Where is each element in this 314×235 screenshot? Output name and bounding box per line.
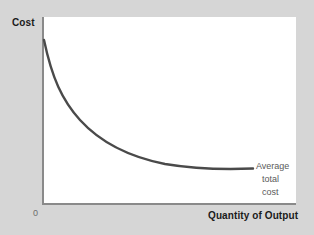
average-total-cost-curve: [44, 40, 253, 169]
curve-annotation-line-2: total: [256, 173, 310, 186]
x-axis-label: Quantity of Output: [208, 210, 298, 222]
average-total-cost-figure: Cost Quantity of Output 0 Average total …: [0, 0, 314, 235]
curve-annotation-line-3: cost: [256, 186, 310, 199]
origin-label: 0: [33, 208, 38, 219]
curve-layer: [0, 0, 314, 235]
y-axis-label: Cost: [12, 17, 35, 29]
curve-annotation: Average total cost: [256, 160, 310, 199]
curve-annotation-line-1: Average: [256, 160, 310, 173]
